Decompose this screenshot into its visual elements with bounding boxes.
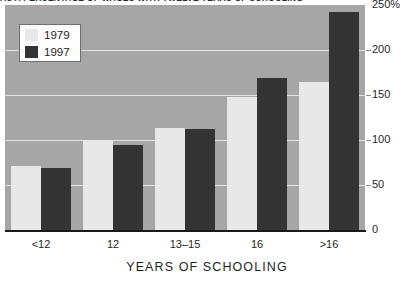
legend-label-1979: 1979 xyxy=(44,29,70,41)
bar-1997-<12 xyxy=(41,168,71,230)
y-tick-mark-200 xyxy=(366,50,371,51)
bar-1997-13–15 xyxy=(185,129,215,230)
y-tick-label-100: 100 xyxy=(372,134,390,145)
x-axis-line xyxy=(5,230,366,232)
x-tick-label->16: >16 xyxy=(293,238,365,250)
legend-swatch-1997 xyxy=(25,46,38,58)
y-tick-mark-50 xyxy=(366,185,371,186)
y-tick-label-50: 50 xyxy=(372,179,384,190)
x-tick-label-<12: <12 xyxy=(5,238,77,250)
x-axis-title: YEARS OF SCHOOLING xyxy=(0,260,414,274)
legend-item-1997: 1997 xyxy=(25,46,70,58)
y-tick-label-250: 250% xyxy=(372,0,400,10)
bar-1979-16 xyxy=(227,97,257,230)
bar-1979-12 xyxy=(83,140,113,230)
x-tick-label-13–15: 13–15 xyxy=(149,238,221,250)
chart-title: AS A PERCENTAGE OF WAGES WITH TWELVE YEA… xyxy=(0,0,414,3)
legend-swatch-1979 xyxy=(25,29,38,41)
y-tick-mark-150 xyxy=(366,95,371,96)
chart-legend: 1979 1997 xyxy=(19,24,81,62)
bar-1979-<12 xyxy=(11,166,41,230)
legend-label-1997: 1997 xyxy=(44,46,70,58)
bar-1997->16 xyxy=(329,12,359,230)
x-tick-label-12: 12 xyxy=(77,238,149,250)
bar-1979->16 xyxy=(299,82,329,231)
legend-item-1979: 1979 xyxy=(25,29,70,41)
x-tick-label-16: 16 xyxy=(221,238,293,250)
bar-1979-13–15 xyxy=(155,128,185,230)
bar-1997-16 xyxy=(257,78,287,230)
y-tick-mark-100 xyxy=(366,140,371,141)
y-tick-label-0: 0 xyxy=(372,224,378,235)
y-tick-label-150: 150 xyxy=(372,89,390,100)
bar-1997-12 xyxy=(113,145,143,231)
y-tick-label-200: 200 xyxy=(372,44,390,55)
